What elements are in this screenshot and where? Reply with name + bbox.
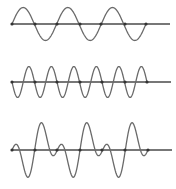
zero-crossing-dot [55,22,58,25]
zero-crossing-dot [78,22,81,25]
zero-crossing-dot [10,148,13,151]
zero-crossing-dot [99,22,102,25]
zero-crossing-dot [144,22,147,25]
wave-1-group [10,8,170,41]
zero-crossing-dot [55,80,58,83]
zero-crossing-dot [145,80,148,83]
zero-crossing-dot [78,80,81,83]
zero-crossing-dot [55,148,58,151]
wave-superposition-diagram [0,0,176,189]
zero-crossing-dot [10,80,13,83]
wave-3-combined-group [10,123,172,178]
zero-crossing-dot [123,148,126,151]
zero-crossing-dot [10,22,13,25]
zero-crossing-dot [33,80,36,83]
zero-crossing-dot [100,148,103,151]
zero-crossing-dot [123,80,126,83]
zero-crossing-dot [78,148,81,151]
zero-crossing-dot [123,22,126,25]
zero-crossing-dot [146,148,149,151]
zero-crossing-dot [100,80,103,83]
wave-2-group [10,67,171,98]
zero-crossing-dot [33,148,36,151]
zero-crossing-dot [33,22,36,25]
